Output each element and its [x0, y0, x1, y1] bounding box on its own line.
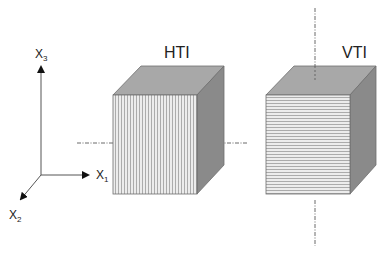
x3-label: X3 [35, 47, 47, 63]
coordinate-axes [21, 67, 88, 199]
x2-subscript: 2 [17, 215, 21, 224]
vti-front-face [266, 95, 350, 194]
x2-axis [21, 175, 41, 199]
x3-subscript: 3 [43, 54, 47, 63]
x2-label: X2 [9, 208, 21, 224]
x1-label: X1 [96, 168, 108, 184]
x3-base: X [35, 47, 43, 61]
diagram-canvas [0, 0, 388, 253]
hti-label: HTI [164, 44, 190, 62]
x2-base: X [9, 208, 17, 222]
hti-cube [113, 66, 224, 194]
x1-base: X [96, 168, 104, 182]
hti-front-face [113, 95, 197, 194]
vti-cube [266, 66, 376, 194]
x1-subscript: 1 [104, 175, 108, 184]
vti-label: VTI [342, 44, 367, 62]
